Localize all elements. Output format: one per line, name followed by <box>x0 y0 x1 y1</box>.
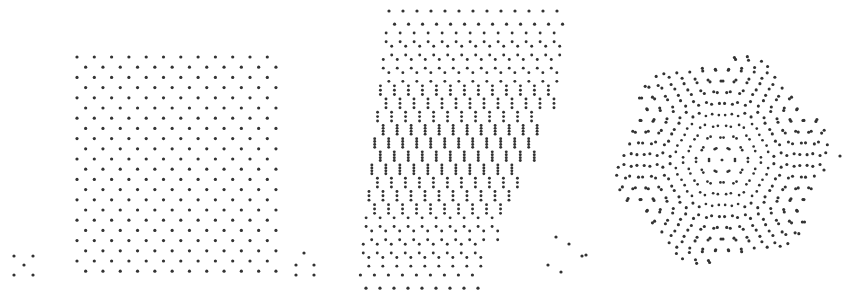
lattice-dot <box>396 133 399 136</box>
lattice-dot <box>725 125 728 128</box>
lattice-dot <box>703 92 706 95</box>
lattice-dot <box>214 76 217 79</box>
lattice-dot <box>647 130 650 133</box>
lattice-dot <box>398 238 401 241</box>
lattice-dot <box>527 9 530 12</box>
lattice-dot <box>499 143 502 146</box>
lattice-dot <box>694 239 697 242</box>
lattice-dot <box>471 71 474 74</box>
lattice-dot <box>696 81 699 84</box>
lattice-dot <box>758 184 761 187</box>
lattice-dot <box>294 263 297 266</box>
lattice-dot <box>240 147 243 150</box>
lattice-dot <box>110 76 113 79</box>
lattice-dot <box>750 115 753 118</box>
lattice-dot <box>483 102 486 105</box>
lattice-dot <box>205 66 208 69</box>
lattice-dot <box>404 177 407 180</box>
lattice-dot <box>698 205 701 208</box>
lattice-dot <box>714 249 717 252</box>
lattice-dot <box>384 230 387 233</box>
lattice-dot <box>774 140 777 143</box>
lattice-dot <box>675 252 678 255</box>
lattice-dot <box>471 143 474 146</box>
lattice-dot <box>558 45 561 48</box>
lattice-dot <box>745 183 748 186</box>
lattice-dot <box>404 186 407 189</box>
lattice-dot <box>533 93 536 96</box>
lattice-dot <box>421 93 424 96</box>
lattice-dot <box>373 273 376 276</box>
lattice-dot <box>205 86 208 89</box>
lattice-dot <box>482 172 485 175</box>
lattice-dot <box>457 137 460 140</box>
lattice-dot <box>760 77 763 80</box>
lattice-dot <box>463 225 466 228</box>
lattice-dot <box>432 120 435 123</box>
lattice-dot <box>421 156 424 159</box>
lattice-dot <box>390 177 393 180</box>
lattice-dot <box>553 40 556 43</box>
lattice-dot <box>739 146 742 149</box>
lattice-dot <box>553 98 556 101</box>
lattice-dot <box>438 199 441 202</box>
lattice-dot <box>136 66 139 69</box>
lattice-dot <box>424 130 427 133</box>
lattice-dot <box>822 168 825 171</box>
lattice-dot <box>404 181 407 184</box>
lattice-dot <box>274 127 277 130</box>
lattice-dot <box>737 115 740 118</box>
lattice-dot <box>731 103 734 106</box>
lattice-dot <box>407 150 410 153</box>
lattice-dot <box>214 259 217 262</box>
lattice-dot <box>638 97 641 100</box>
lattice-dot <box>415 9 418 12</box>
lattice-dot <box>266 198 269 201</box>
lattice-dot <box>494 67 497 70</box>
lattice-dot <box>471 9 474 12</box>
lattice-dot <box>427 32 430 35</box>
lattice-dot <box>783 106 786 109</box>
lattice-dot <box>188 270 191 273</box>
lattice-dot <box>631 187 634 190</box>
lattice-dot <box>513 137 516 140</box>
lattice-dot <box>257 270 260 273</box>
lattice-dot <box>376 243 379 246</box>
lattice-dot <box>756 206 759 209</box>
lattice-dot <box>734 158 737 161</box>
lattice-dot <box>742 126 745 129</box>
lattice-dot <box>376 181 379 184</box>
lattice-dot <box>231 55 234 58</box>
lattice-dot <box>705 115 708 118</box>
lattice-dot <box>699 191 702 194</box>
lattice-dot <box>171 168 174 171</box>
lattice-dot <box>438 124 441 127</box>
lattice-dot <box>689 145 692 148</box>
lattice-dot <box>740 70 743 73</box>
lattice-dot <box>448 287 451 290</box>
lattice-dot <box>749 100 752 103</box>
lattice-dot <box>426 169 429 172</box>
lattice-dot <box>770 211 773 214</box>
lattice-dot <box>712 90 715 93</box>
lattice-dot <box>657 131 660 134</box>
lattice-dot <box>222 106 225 109</box>
lattice-dot <box>214 239 217 242</box>
lattice-dot <box>477 84 480 87</box>
lattice-dot <box>399 106 402 109</box>
lattice-dot <box>248 239 251 242</box>
lattice-dot <box>179 239 182 242</box>
lattice-dot <box>670 234 673 237</box>
lattice-dot <box>785 154 788 157</box>
lattice-dot <box>399 40 402 43</box>
lattice-dot <box>231 96 234 99</box>
lattice-dot <box>84 86 87 89</box>
lattice-dot <box>527 140 530 143</box>
lattice-dot <box>491 225 494 228</box>
lattice-dot <box>791 142 794 145</box>
lattice-dot <box>525 102 528 105</box>
lattice-dot <box>145 55 148 58</box>
lattice-dot <box>446 111 449 114</box>
lattice-dot <box>480 199 483 202</box>
lattice-dot <box>179 55 182 58</box>
